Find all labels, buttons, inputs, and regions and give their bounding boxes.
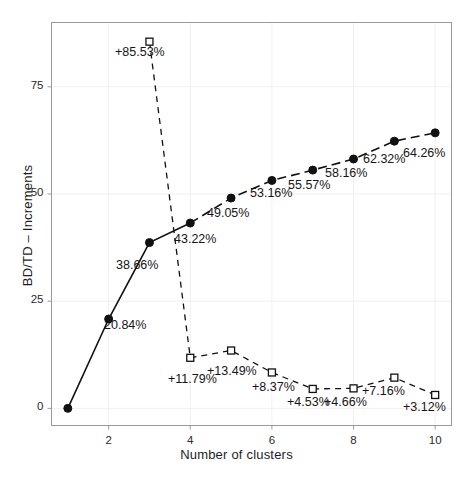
x-tick-label: 10 bbox=[420, 434, 450, 446]
chart-container: BD/TD – Increments Number of clusters 02… bbox=[0, 0, 473, 477]
series-markers bbox=[64, 38, 439, 412]
data-point-label: 58.16% bbox=[325, 166, 367, 180]
data-point-label: 53.16% bbox=[250, 186, 292, 200]
y-tick-label: 50 bbox=[10, 186, 44, 198]
data-point-label: 43.22% bbox=[174, 232, 216, 246]
x-tick-label: 8 bbox=[339, 434, 369, 446]
data-point-label: 62.32% bbox=[363, 152, 405, 166]
x-axis-title: Number of clusters bbox=[0, 447, 473, 462]
x-tick-marks bbox=[109, 426, 436, 430]
y-tick-label: 75 bbox=[10, 79, 44, 91]
data-point-label: 55.57% bbox=[288, 178, 330, 192]
data-point-label: +7.16% bbox=[362, 384, 405, 398]
data-point-label: 38.66% bbox=[116, 258, 158, 272]
series-lines bbox=[68, 42, 435, 409]
x-tick-label: 2 bbox=[94, 434, 124, 446]
data-point-label: 20.84% bbox=[104, 318, 146, 332]
data-point-label: +13.49% bbox=[207, 364, 257, 378]
data-point-label: +3.12% bbox=[403, 400, 446, 414]
y-axis-title: BD/TD – Increments bbox=[20, 146, 35, 306]
y-tick-marks bbox=[48, 87, 52, 409]
y-tick-label: 0 bbox=[10, 400, 44, 412]
data-point-label: 64.26% bbox=[403, 146, 445, 160]
x-tick-label: 6 bbox=[257, 434, 287, 446]
x-tick-label: 4 bbox=[175, 434, 205, 446]
y-tick-label: 25 bbox=[10, 293, 44, 305]
data-point-label: +4.66% bbox=[324, 395, 367, 409]
data-point-label: +8.37% bbox=[252, 380, 295, 394]
data-point-label: +85.53% bbox=[115, 45, 165, 59]
data-point-label: 49.05% bbox=[207, 206, 249, 220]
